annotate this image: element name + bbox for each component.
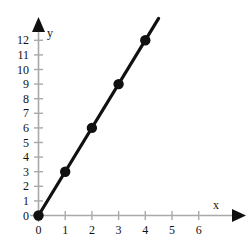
data-point [33, 210, 43, 220]
x-axis-arrow-icon [232, 209, 246, 222]
y-tick-label-8: 8 [7, 93, 29, 105]
y-tick-label-5: 5 [7, 137, 29, 149]
data-point [140, 35, 150, 45]
x-tick-label-5: 5 [164, 224, 180, 236]
y-tick-label-1: 1 [7, 195, 29, 207]
x-axis-label: x [213, 199, 219, 211]
data-line-series-1 [39, 18, 159, 215]
y-axis-arrow-icon [32, 17, 45, 32]
y-tick-label-11: 11 [7, 49, 29, 61]
data-point [113, 79, 123, 89]
y-tick-label-7: 7 [7, 107, 29, 119]
y-tick-label-3: 3 [7, 166, 29, 178]
y-tick-label-2: 2 [7, 180, 29, 192]
y-tick-label-6: 6 [7, 122, 29, 134]
line-chart: 12 11 10 9 8 7 6 5 4 3 2 1 0 0 1 2 3 4 5… [0, 0, 252, 247]
x-tick-label-3: 3 [111, 224, 127, 236]
x-tick-label-0: 0 [31, 224, 47, 236]
data-point [87, 123, 97, 133]
y-tick-label-9: 9 [7, 78, 29, 90]
y-tick-label-10: 10 [7, 64, 29, 76]
y-tick-label-4: 4 [7, 151, 29, 163]
y-tick-label-12: 12 [7, 34, 29, 46]
x-tick-label-1: 1 [57, 224, 73, 236]
data-point [60, 167, 70, 177]
x-tick-label-4: 4 [137, 224, 153, 236]
y-tick-label-0: 0 [7, 210, 29, 222]
x-tick-label-2: 2 [84, 224, 100, 236]
y-axis-label: y [47, 27, 53, 39]
x-tick-label-6: 6 [191, 224, 207, 236]
